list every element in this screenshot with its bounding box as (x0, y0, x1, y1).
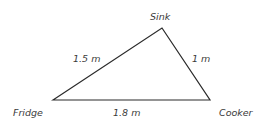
kitchen-work-triangle-diagram: Sink Fridge Cooker 1.5 m 1 m 1.8 m (0, 0, 266, 125)
work-triangle (53, 28, 210, 100)
edge-label-fridge-sink: 1.5 m (73, 53, 100, 64)
vertex-label-cooker: Cooker (219, 107, 254, 118)
edge-label-sink-cooker: 1 m (192, 53, 210, 64)
vertex-label-fridge: Fridge (13, 107, 43, 118)
edge-label-fridge-cooker: 1.8 m (113, 107, 140, 118)
vertex-label-sink: Sink (150, 11, 171, 22)
